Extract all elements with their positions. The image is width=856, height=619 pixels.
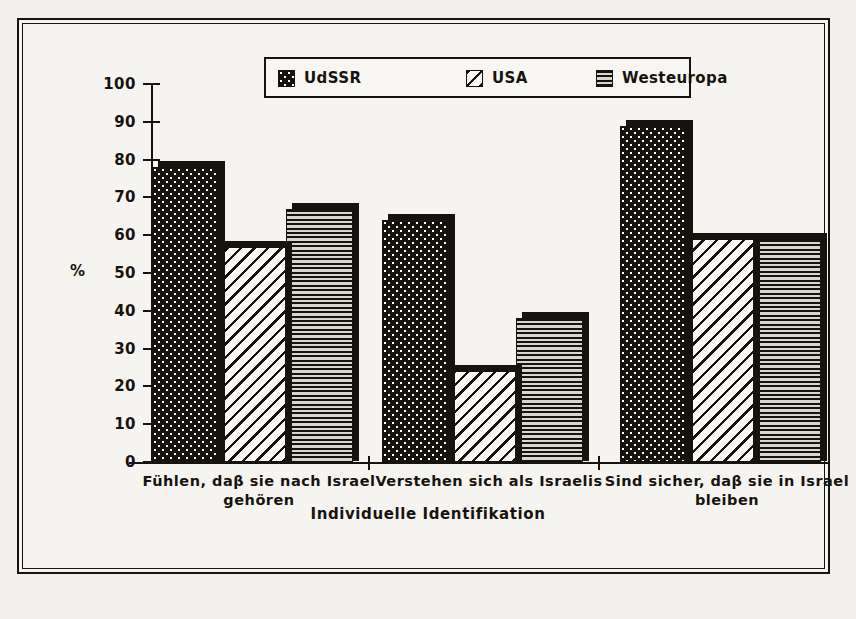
bar-face: [153, 168, 218, 461]
y-axis-tick-label-wrap-60: 60: [88, 226, 136, 244]
bar-3d-top: [522, 312, 587, 319]
bar-face: [688, 240, 753, 461]
bar-3d-top: [626, 120, 691, 127]
y-axis-tick-label-30: 30: [92, 340, 136, 358]
bar-3d-side: [515, 365, 522, 461]
y-axis-tick-label-40: 40: [92, 302, 136, 320]
bar-3d-top: [455, 365, 520, 372]
legend-label-usa: USA: [492, 69, 528, 87]
bar-face: [287, 210, 352, 461]
bar-udssr-group-2: [382, 220, 449, 462]
bar-westeuropa-group-2: [516, 318, 583, 462]
y-axis-tick-label-100: 100: [92, 75, 136, 93]
y-axis-tick-label-wrap-30: 30: [88, 340, 136, 358]
bar-3d-top: [388, 214, 453, 221]
bar-3d-top: [693, 233, 758, 240]
chart-page: 0102030405060708090100 % Fühlen, daβ sie…: [0, 0, 856, 619]
x-axis-tick-separator-1: [368, 456, 370, 470]
bar-3d-side: [448, 214, 455, 461]
y-axis-tick-label-wrap-70: 70: [88, 188, 136, 206]
y-axis-tick-label-10: 10: [92, 415, 136, 433]
bar-3d-side: [218, 161, 225, 461]
legend: UdSSRUSAWesteuropa: [264, 57, 691, 98]
bar-3d-side: [686, 120, 693, 461]
bar-face: [621, 127, 686, 461]
bar-3d-side: [285, 241, 292, 461]
y-axis-tick-label-wrap-0: 0: [88, 453, 136, 471]
y-axis-tick-label-wrap-50: 50: [88, 264, 136, 282]
bar-westeuropa-group-1: [286, 209, 353, 462]
bar-face: [220, 248, 285, 461]
bar-face: [755, 240, 820, 461]
y-axis-tick-label-0: 0: [92, 453, 136, 471]
bar-face: [517, 319, 582, 461]
bar-usa-group-1: [219, 247, 286, 462]
y-axis-tick-label-70: 70: [92, 188, 136, 206]
bar-westeuropa-group-3: [754, 239, 821, 462]
bar-usa-group-3: [687, 239, 754, 462]
y-axis-tick-90: [143, 121, 160, 123]
bar-3d-side: [582, 312, 589, 461]
y-axis-tick-label-wrap-90: 90: [88, 113, 136, 131]
y-axis-tick-label-20: 20: [92, 377, 136, 395]
y-axis-tick-label-wrap-40: 40: [88, 302, 136, 320]
legend-item-westeuropa[interactable]: Westeuropa: [596, 67, 728, 89]
bar-3d-side: [352, 203, 359, 461]
y-axis-tick-label-80: 80: [92, 151, 136, 169]
y-axis-tick-label-wrap-80: 80: [88, 151, 136, 169]
legend-swatch-usa-icon: [466, 70, 483, 87]
legend-label-udssr: UdSSR: [304, 69, 361, 87]
legend-swatch-udssr-icon: [278, 70, 295, 87]
category-label-line-1: Fühlen, daβ sie nach Israel: [134, 472, 384, 491]
bar-3d-top: [225, 241, 290, 248]
y-axis-tick-label-wrap-10: 10: [88, 415, 136, 433]
bar-3d-top: [158, 161, 223, 168]
legend-swatch-westeuropa-icon: [596, 70, 613, 87]
category-label-line-1: Verstehen sich als Israelis: [364, 472, 614, 491]
y-axis-tick-label-50: 50: [92, 264, 136, 282]
y-axis-tick-label-60: 60: [92, 226, 136, 244]
bar-udssr-group-3: [620, 126, 687, 462]
x-axis-tick-separator-2: [598, 456, 600, 470]
y-axis-tick-label-90: 90: [92, 113, 136, 131]
y-axis-tick-100: [143, 83, 160, 85]
x-axis-tick-separator-3: [828, 456, 830, 470]
x-axis-line: [129, 462, 829, 464]
category-label-line-1: Sind sicher, daβ sie in Israel: [602, 472, 852, 491]
bar-face: [383, 221, 448, 461]
y-axis-title: %: [70, 262, 85, 280]
legend-label-westeuropa: Westeuropa: [622, 69, 728, 87]
y-axis-tick-label-wrap-20: 20: [88, 377, 136, 395]
bar-usa-group-2: [449, 371, 516, 462]
bar-3d-side: [753, 233, 760, 461]
bar-3d-side: [820, 233, 827, 461]
bar-3d-top: [292, 203, 357, 210]
legend-item-udssr[interactable]: UdSSR: [278, 67, 361, 89]
bar-udssr-group-1: [152, 167, 219, 462]
plot-area: 0102030405060708090100 % Fühlen, daβ sie…: [0, 0, 856, 619]
bar-face: [450, 372, 515, 461]
bar-3d-top: [760, 233, 825, 240]
legend-item-usa[interactable]: USA: [466, 67, 528, 89]
x-axis-title: Individuelle Identifikation: [0, 505, 856, 523]
x-axis-category-label-2: Verstehen sich als Israelis: [364, 472, 614, 491]
y-axis-tick-label-wrap-100: 100: [88, 75, 136, 93]
